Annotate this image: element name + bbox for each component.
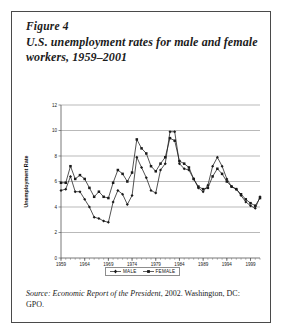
- data-point-female: [74, 178, 77, 181]
- y-tick-label: 0: [54, 256, 57, 261]
- data-point-female: [117, 169, 120, 172]
- data-point-male: [69, 175, 72, 178]
- data-point-female: [155, 170, 158, 173]
- figure-title-block: Figure 4 U.S. unemployment rates for mal…: [26, 20, 264, 64]
- data-point-male: [74, 190, 77, 193]
- data-point-female: [178, 160, 181, 163]
- data-point-female: [221, 173, 224, 176]
- data-point-female: [102, 196, 105, 199]
- data-point-female: [64, 182, 67, 185]
- legend-label-male: MALE: [123, 269, 137, 274]
- data-point-female: [150, 165, 153, 168]
- data-point-female: [207, 187, 210, 190]
- data-point-female: [254, 204, 257, 207]
- data-point-male: [145, 176, 148, 179]
- data-point-female: [93, 196, 96, 199]
- series-line-male: [61, 132, 260, 223]
- data-point-female: [183, 162, 186, 165]
- legend-item-male: MALE: [110, 269, 137, 274]
- data-point-female: [259, 197, 262, 200]
- data-point-female: [169, 137, 172, 140]
- data-point-female: [112, 182, 115, 185]
- data-point-female: [235, 188, 238, 191]
- data-point-male: [126, 203, 129, 206]
- data-point-male: [140, 166, 143, 169]
- data-point-male: [60, 189, 63, 192]
- source-note: Source: Economic Report of the President…: [26, 289, 258, 310]
- data-point-male: [221, 165, 224, 168]
- y-tick-label: 2: [54, 230, 57, 235]
- data-point-female: [131, 171, 134, 174]
- data-point-female: [164, 156, 167, 159]
- data-point-female: [188, 166, 191, 169]
- unemployment-line-chart: 0246810121959196419691974197919841989199…: [17, 82, 267, 282]
- data-point-female: [140, 147, 143, 150]
- data-point-female: [192, 178, 195, 181]
- series-line-female: [61, 138, 260, 206]
- page-title: U.S. unemployment rates for male and fem…: [26, 35, 264, 64]
- data-point-female: [98, 190, 101, 193]
- y-tick-label: 12: [52, 103, 58, 108]
- source-work: Economic Report of the President: [51, 289, 161, 298]
- x-tick-label: 1964: [80, 262, 91, 267]
- data-point-female: [79, 174, 82, 177]
- data-point-female: [69, 165, 72, 168]
- data-point-female: [226, 180, 229, 183]
- data-point-female: [230, 185, 233, 188]
- x-tick-label: 1994: [222, 262, 233, 267]
- x-tick-label: 1989: [198, 262, 209, 267]
- data-point-male: [211, 165, 214, 168]
- chart-legend: MALE FEMALE: [105, 267, 180, 276]
- y-tick-label: 8: [54, 154, 57, 159]
- data-point-female: [121, 173, 124, 176]
- data-point-female: [245, 198, 248, 201]
- data-point-female: [88, 187, 91, 190]
- female-marker-icon: [143, 269, 154, 274]
- data-point-female: [107, 197, 110, 200]
- chart-canvas: 0246810121959196419691974197919841989199…: [17, 82, 267, 282]
- legend-item-female: FEMALE: [143, 269, 176, 274]
- y-axis-label: Unemployment Rate: [23, 155, 29, 207]
- data-point-female: [211, 175, 214, 178]
- data-point-male: [64, 188, 67, 191]
- data-point-female: [173, 139, 176, 142]
- y-tick-label: 4: [54, 205, 57, 210]
- x-tick-label: 1999: [245, 262, 256, 267]
- data-point-female: [126, 180, 129, 183]
- figure-number: Figure 4: [26, 20, 264, 32]
- data-point-female: [60, 182, 63, 185]
- data-point-male: [93, 216, 96, 219]
- male-marker-icon: [110, 269, 121, 274]
- data-point-male: [150, 189, 153, 192]
- data-point-male: [107, 221, 110, 224]
- x-tick-label: 1959: [56, 262, 67, 267]
- data-point-female: [159, 162, 162, 165]
- data-point-female: [240, 193, 243, 196]
- data-point-male: [102, 220, 105, 223]
- data-point-female: [216, 168, 219, 171]
- y-tick-label: 6: [54, 179, 57, 184]
- source-lead: Source:: [26, 289, 51, 298]
- data-point-female: [249, 202, 252, 205]
- data-point-male: [112, 200, 115, 203]
- figure-panel: Figure 4 U.S. unemployment rates for mal…: [11, 11, 271, 323]
- data-point-male: [154, 191, 157, 194]
- data-point-female: [83, 178, 86, 181]
- data-point-female: [145, 152, 148, 155]
- data-point-male: [97, 217, 100, 220]
- data-point-female: [136, 138, 139, 141]
- y-tick-label: 10: [52, 128, 58, 133]
- data-point-female: [202, 188, 205, 191]
- data-point-female: [197, 185, 200, 188]
- data-point-male: [131, 194, 134, 197]
- legend-label-female: FEMALE: [156, 269, 176, 274]
